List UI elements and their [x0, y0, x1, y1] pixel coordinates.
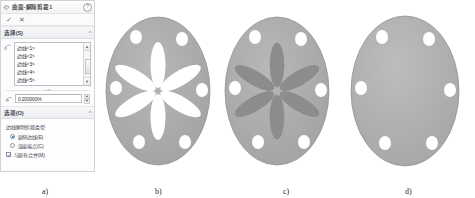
radio-button-icon[interactable]	[10, 134, 15, 139]
surface-untrim-icon	[3, 4, 10, 11]
selection-listbox[interactable]: 边线<1> 边线<2> 边线<3> 边线<4> 边线<5> ▲ ▼	[14, 42, 91, 86]
selection-section-title: 选择(S)	[4, 29, 89, 37]
listbox-scrollbar[interactable]: ▲ ▼	[83, 43, 90, 85]
radio-connect-label: 连接端点(C)	[18, 142, 44, 149]
panel-title: 曲面-解除剪裁1	[12, 3, 81, 11]
selection-section-header[interactable]: 选择(S) ^	[1, 26, 94, 39]
scroll-down-icon[interactable]: ▼	[84, 77, 90, 85]
chevron-up-icon[interactable]: ^	[88, 110, 91, 116]
ok-button[interactable]: ✓	[5, 16, 13, 24]
figure-d-graphic	[348, 12, 463, 170]
scroll-up-icon[interactable]: ▲	[84, 43, 90, 51]
caption-a: a)	[42, 187, 48, 196]
checkbox-icon[interactable]	[6, 152, 11, 157]
chevron-up-icon[interactable]: ^	[88, 30, 91, 36]
figure-b	[103, 12, 213, 170]
list-item[interactable]: 边线<5>	[16, 76, 83, 84]
edge-select-icon	[4, 43, 12, 51]
merge-checkbox-label: 与原有合并(M)	[14, 151, 45, 158]
scrollbar-thumb[interactable]	[85, 59, 92, 74]
caption-c: c)	[283, 187, 289, 196]
caption-d: d)	[405, 187, 412, 196]
percent-input[interactable]: 0.200000%	[15, 94, 82, 103]
radio-button-icon[interactable]	[10, 143, 15, 148]
figure-b-graphic	[103, 12, 213, 170]
selection-row: 边线<1> 边线<2> 边线<3> 边线<4> 边线<5> ▲ ▼	[4, 42, 91, 86]
radio-connect-endpoints[interactable]: 连接端点(C)	[4, 141, 91, 150]
options-section-body: 边线解除剪裁类型 延伸边线(E) 连接端点(C) 与原有合并(M)	[1, 119, 94, 162]
list-item[interactable]: 边线<3>	[16, 60, 83, 68]
screenshot-root: 曲面-解除剪裁1 ? ✓ ✕ 选择(S) ^ 边线<	[0, 0, 475, 198]
scrollbar-track[interactable]	[84, 51, 90, 77]
selection-section-body: 边线<1> 边线<2> 边线<3> 边线<4> 边线<5> ▲ ▼	[1, 39, 94, 106]
extend-percent-icon	[5, 95, 13, 103]
radio-extend-label: 延伸边线(E)	[18, 133, 44, 140]
cancel-button[interactable]: ✕	[18, 16, 26, 24]
spinner-down-icon[interactable]: ▼	[84, 99, 90, 104]
help-icon[interactable]: ?	[83, 3, 92, 12]
percent-stepper[interactable]: ▲ ▼	[84, 94, 90, 103]
merge-with-original-checkbox[interactable]: 与原有合并(M)	[4, 150, 91, 159]
list-item[interactable]: 边线<2>	[16, 52, 83, 60]
options-section-title: 选项(O)	[4, 109, 89, 117]
untrim-type-label: 边线解除剪裁类型	[4, 122, 91, 132]
selection-list: 边线<1> 边线<2> 边线<3> 边线<4> 边线<5>	[15, 43, 83, 85]
figure-c	[222, 12, 332, 170]
figure-c-graphic	[222, 12, 332, 170]
property-manager-panel: 曲面-解除剪裁1 ? ✓ ✕ 选择(S) ^ 边线<	[0, 0, 95, 172]
radio-extend-edges[interactable]: 延伸边线(E)	[4, 132, 91, 141]
caption-b: b)	[155, 187, 162, 196]
list-item[interactable]: 边线<1>	[16, 44, 83, 52]
list-item[interactable]: 边线<4>	[16, 68, 83, 76]
panel-title-bar: 曲面-解除剪裁1 ?	[1, 1, 94, 14]
percent-row: 0.200000% ▲ ▼	[4, 94, 91, 103]
section-divider	[6, 90, 89, 91]
panel-action-bar: ✓ ✕	[1, 14, 94, 26]
percent-value: 0.200000%	[16, 96, 42, 102]
options-section-header[interactable]: 选项(O) ^	[1, 106, 94, 119]
figure-d	[348, 12, 463, 170]
